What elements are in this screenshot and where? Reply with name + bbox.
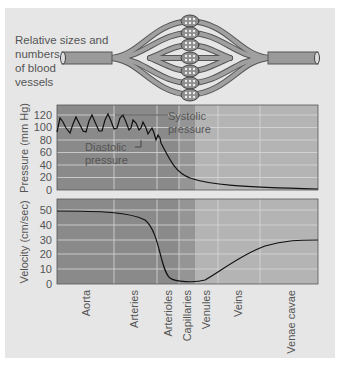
svg-text:0: 0 bbox=[46, 184, 52, 196]
svg-text:30: 30 bbox=[40, 234, 52, 246]
pressure-chart: Systolic pressure Diastolic pressure 120… bbox=[18, 103, 318, 196]
velocity-chart: 50 40 30 20 10 0 Velocity (cm/sec) bbox=[18, 199, 318, 290]
velocity-y-ticks: 50 40 30 20 10 0 bbox=[40, 204, 52, 290]
pressure-axis-label: Pressure (mm Hg) bbox=[18, 103, 30, 193]
label-aorta: Aorta bbox=[80, 289, 92, 316]
systolic-label-2: pressure bbox=[168, 123, 211, 135]
svg-text:10: 10 bbox=[40, 263, 52, 275]
svg-text:120: 120 bbox=[34, 109, 52, 121]
svg-text:100: 100 bbox=[34, 121, 52, 133]
diastolic-label-2: pressure bbox=[85, 154, 128, 166]
systolic-label: Systolic bbox=[168, 110, 206, 122]
label-capillaries: Capillaries bbox=[181, 290, 193, 342]
svg-text:40: 40 bbox=[40, 219, 52, 231]
velocity-axis-label: Velocity (cm/sec) bbox=[18, 200, 30, 283]
diastolic-label: Diastolic bbox=[85, 141, 127, 153]
svg-text:40: 40 bbox=[40, 159, 52, 171]
label-arteries: Arteries bbox=[128, 290, 140, 328]
svg-text:20: 20 bbox=[40, 248, 52, 260]
svg-text:50: 50 bbox=[40, 204, 52, 216]
svg-text:60: 60 bbox=[40, 146, 52, 158]
label-arterioles: Arterioles bbox=[162, 290, 174, 337]
svg-text:80: 80 bbox=[40, 134, 52, 146]
label-venae-cavae: Venae cavae bbox=[285, 290, 297, 354]
label-veins: Veins bbox=[232, 290, 244, 317]
svg-text:0: 0 bbox=[46, 278, 52, 290]
svg-text:20: 20 bbox=[40, 171, 52, 183]
label-venules: Venules bbox=[200, 290, 212, 330]
pressure-y-ticks: 120 100 80 60 40 20 0 bbox=[34, 109, 52, 196]
blood-vessel-diagram bbox=[61, 15, 320, 101]
vessel-category-labels: Aorta Arteries Arterioles Capillaries Ve… bbox=[80, 289, 297, 354]
